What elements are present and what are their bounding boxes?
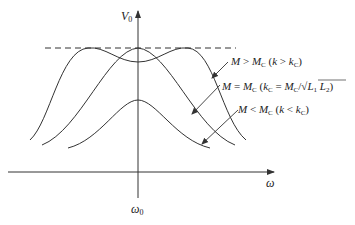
pointer-under-coupled: [202, 110, 238, 144]
coupled-resonance-diagram: V0 ω ω0 M > MC (k > kC) M = MC (kC = MC/…: [0, 0, 355, 225]
y-axis-label: V0: [121, 9, 132, 24]
label-under-coupled: M < MC (k < kC): [237, 103, 309, 117]
x-axis-label: ω: [266, 176, 274, 190]
curve-under-coupled: [68, 100, 210, 148]
pointer-critical: [192, 85, 220, 114]
label-over-coupled: M > MC (k > kC): [230, 55, 302, 69]
label-critical: M = MC (kC = MC/√L1 L2): [221, 80, 333, 94]
pointer-over-coupled: [212, 62, 228, 78]
center-frequency-label: ω0: [131, 202, 143, 217]
